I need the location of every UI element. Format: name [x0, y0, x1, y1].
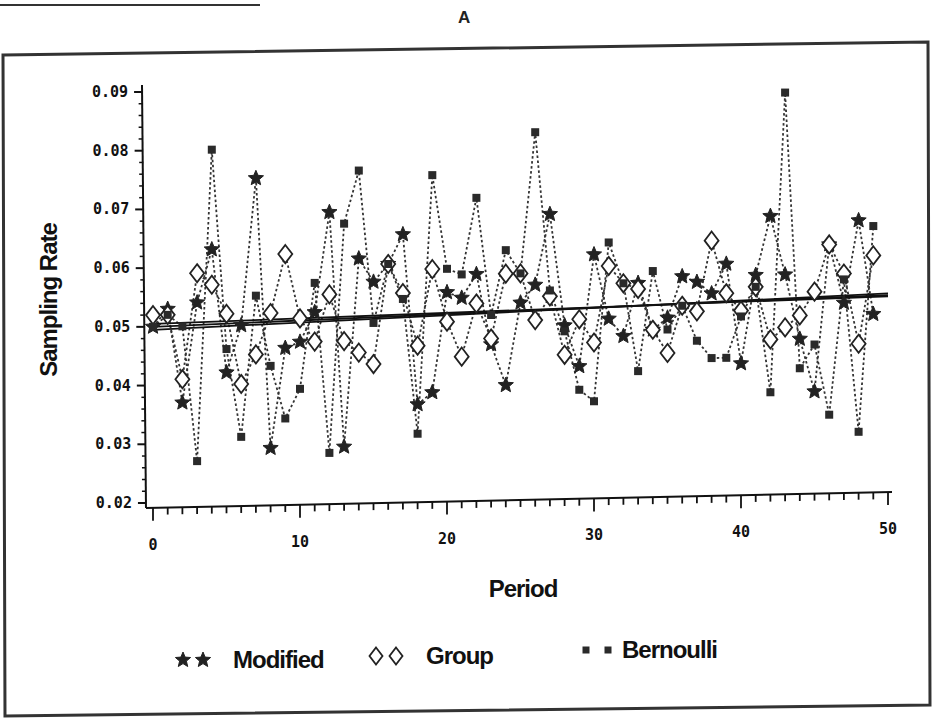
- legend-item-bernoulli: Bernoulli: [583, 636, 718, 663]
- square-marker: [370, 319, 378, 327]
- diamond-marker: [661, 344, 675, 362]
- square-marker: [458, 270, 466, 278]
- diamond-marker: [705, 232, 719, 250]
- square-marker: [149, 323, 157, 331]
- star-marker: [337, 439, 352, 453]
- square-marker: [531, 128, 539, 136]
- star-marker: [190, 295, 205, 310]
- diamond-icon: [370, 648, 383, 665]
- y-axis-title: Sampling Rate: [35, 223, 62, 377]
- square-marker: [619, 279, 627, 287]
- legend-label: Bernoulli: [622, 636, 717, 663]
- x-tick-label: 0: [148, 536, 157, 554]
- square-marker: [384, 260, 392, 268]
- square-marker: [752, 283, 760, 291]
- series-markers-bernoulli: [149, 89, 877, 466]
- square-marker: [443, 265, 451, 273]
- y-tick-label: 0.07: [93, 200, 129, 218]
- diamond-marker: [352, 343, 366, 361]
- legend-label: Group: [426, 642, 493, 669]
- star-marker: [704, 286, 719, 301]
- square-marker: [825, 411, 833, 419]
- square-marker: [399, 295, 407, 303]
- diamond-marker: [308, 333, 322, 351]
- legend-item-group: Group: [370, 642, 494, 669]
- square-marker: [223, 345, 231, 353]
- star-marker: [807, 384, 822, 399]
- square-marker: [708, 354, 716, 362]
- star-icon: [175, 652, 190, 667]
- diamond-icon: [390, 648, 403, 665]
- square-marker: [664, 326, 672, 334]
- square-marker: [766, 388, 774, 396]
- plot-area: [145, 89, 888, 466]
- x-axis-line: [146, 492, 892, 508]
- diamond-marker: [337, 332, 351, 350]
- diamond-marker: [866, 246, 880, 264]
- square-marker: [722, 354, 730, 362]
- x-tick-label: 10: [291, 533, 309, 551]
- star-marker: [763, 208, 778, 223]
- star-marker: [601, 311, 616, 326]
- series-line-bernoulli: [153, 93, 873, 462]
- y-tick-label: 0.05: [94, 318, 130, 336]
- legend-item-modified: Modified: [175, 646, 324, 673]
- star-marker: [454, 290, 469, 305]
- y-tick-label: 0.03: [95, 435, 131, 453]
- star-marker: [175, 395, 190, 409]
- square-icon: [583, 647, 590, 654]
- square-marker: [517, 269, 525, 277]
- square-marker: [267, 362, 275, 370]
- square-marker: [340, 220, 348, 228]
- square-marker: [325, 449, 333, 457]
- square-marker: [502, 246, 510, 254]
- square-marker: [472, 194, 480, 202]
- star-marker: [792, 331, 807, 346]
- diamond-marker: [499, 265, 513, 283]
- square-marker: [840, 275, 848, 283]
- star-marker: [851, 212, 866, 227]
- star-marker: [778, 267, 793, 281]
- square-marker: [634, 367, 642, 375]
- star-marker: [572, 358, 587, 373]
- diamond-marker: [793, 306, 807, 324]
- diamond-marker: [190, 264, 204, 282]
- square-marker: [693, 337, 701, 345]
- star-marker: [498, 377, 513, 392]
- square-marker: [855, 428, 863, 436]
- diamond-marker: [852, 335, 866, 353]
- diamond-marker: [763, 330, 777, 348]
- x-tick-label: 40: [732, 523, 750, 541]
- square-marker: [649, 267, 657, 275]
- diamond-marker: [367, 355, 381, 373]
- diamond-marker: [278, 245, 292, 263]
- star-marker: [219, 365, 234, 380]
- square-marker: [281, 414, 289, 422]
- square-marker: [590, 397, 598, 405]
- y-tick-label: 0.09: [92, 83, 128, 101]
- diamond-marker: [528, 311, 542, 329]
- diamond-marker: [175, 370, 189, 388]
- square-marker: [575, 386, 583, 394]
- series-line-modified: [153, 178, 873, 448]
- diamond-marker: [602, 257, 616, 275]
- square-marker: [796, 364, 804, 372]
- square-marker: [296, 385, 304, 393]
- star-icon: [195, 652, 210, 667]
- square-marker: [811, 341, 819, 349]
- square-marker: [605, 238, 613, 246]
- star-marker: [307, 304, 322, 318]
- diamond-marker: [778, 318, 792, 336]
- square-marker: [869, 222, 877, 230]
- y-tick-label: 0.06: [94, 259, 130, 277]
- diamond-marker: [455, 348, 469, 366]
- legend: ModifiedGroupBernoulli: [175, 636, 717, 673]
- star-marker: [528, 277, 543, 291]
- legend-label: Modified: [233, 646, 324, 673]
- square-marker: [428, 171, 436, 179]
- square-marker: [311, 279, 319, 287]
- square-marker: [355, 167, 363, 175]
- square-marker: [546, 286, 554, 294]
- diamond-marker: [572, 310, 586, 328]
- x-axis-title: Period: [489, 575, 558, 602]
